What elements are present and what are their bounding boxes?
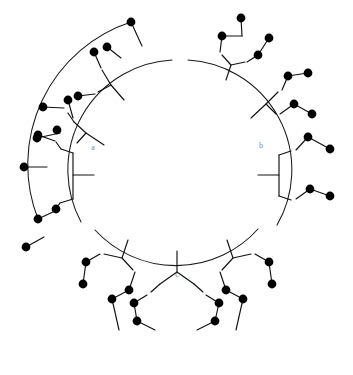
tip-c-11 bbox=[265, 258, 274, 267]
tip-a-05 bbox=[39, 103, 48, 112]
tip-c-10 bbox=[239, 295, 248, 304]
tip-b-09 bbox=[265, 34, 274, 43]
tip-a-13 bbox=[52, 205, 61, 214]
cluster-label-c: c bbox=[175, 270, 179, 279]
tip-c-01 bbox=[82, 258, 91, 267]
tip-b-08 bbox=[284, 72, 293, 81]
tip-b-05 bbox=[308, 110, 317, 119]
tip-c-07 bbox=[215, 299, 224, 308]
tip-c-05 bbox=[130, 299, 139, 308]
tip-b-02 bbox=[304, 133, 313, 142]
tip-a-09 bbox=[90, 48, 99, 57]
tip-c-04 bbox=[108, 295, 117, 304]
tip-a-02 bbox=[20, 163, 29, 172]
tip-a-12 bbox=[53, 126, 62, 135]
tip-b-04 bbox=[306, 185, 315, 194]
tip-b-12 bbox=[218, 32, 227, 41]
tip-c-12 bbox=[268, 280, 277, 289]
circular-dendrogram: a b c bbox=[0, 0, 353, 375]
tip-b-07 bbox=[304, 69, 313, 78]
tip-c-03 bbox=[125, 286, 134, 295]
tip-a-04 bbox=[22, 243, 31, 252]
tip-c-09 bbox=[222, 286, 231, 295]
tip-b-01 bbox=[326, 145, 335, 154]
figure-canvas: a b c bbox=[0, 0, 353, 375]
tip-b-10 bbox=[254, 51, 263, 60]
tip-c-06 bbox=[133, 317, 142, 326]
tip-a-10 bbox=[103, 43, 112, 52]
tip-a-08 bbox=[74, 92, 83, 101]
tip-a-06 bbox=[33, 134, 42, 143]
tip-b-03 bbox=[326, 192, 335, 201]
background bbox=[0, 0, 353, 375]
cluster-label-b: b bbox=[259, 141, 263, 150]
tip-c-08 bbox=[211, 317, 220, 326]
cluster-label-a: a bbox=[91, 143, 95, 152]
tip-a-11 bbox=[127, 18, 136, 27]
tip-b-06 bbox=[290, 100, 299, 109]
tip-a-07 bbox=[64, 96, 73, 105]
tip-c-02 bbox=[79, 280, 88, 289]
tip-b-11 bbox=[237, 14, 246, 23]
tip-a-03 bbox=[34, 215, 43, 224]
